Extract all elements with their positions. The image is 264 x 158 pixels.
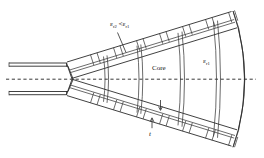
eps-r1-subscript-inline: r1 xyxy=(125,24,130,29)
core-label: Core xyxy=(152,64,166,72)
eps-r2-leader-line xyxy=(118,33,127,53)
eps-r1-label: εr1 xyxy=(203,57,210,66)
eps-r1-subscript: r1 xyxy=(206,61,211,66)
horn-antenna-diagram: εr2 <εr1 Core εr1 t xyxy=(0,0,264,158)
thickness-label: t xyxy=(149,130,152,138)
lower-flare-wall xyxy=(67,79,238,147)
eps-r2-label: εr2 <εr1 xyxy=(110,20,130,29)
figure-canvas: εr2 <εr1 Core εr1 t xyxy=(0,0,264,158)
